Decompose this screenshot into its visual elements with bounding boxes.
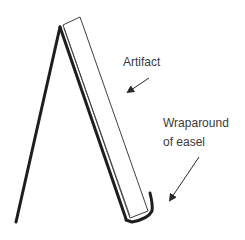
artifact-label: Artifact xyxy=(123,55,161,69)
artifact-arrow xyxy=(128,78,149,92)
easel-diagram: Artifact Wraparound of easel xyxy=(0,0,245,240)
artifact-panel xyxy=(63,17,148,218)
wraparound-label-line2: of easel xyxy=(163,135,205,149)
wraparound-arrow xyxy=(170,157,199,200)
easel-back-leg xyxy=(16,27,60,222)
wraparound-label-line1: Wraparound xyxy=(163,116,229,130)
